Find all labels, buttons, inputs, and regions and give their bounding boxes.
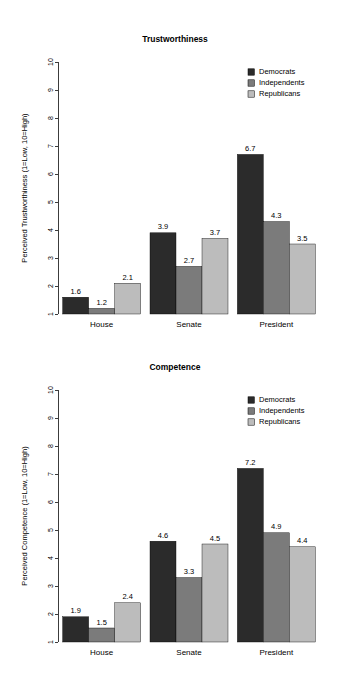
bar-value-label: 3.7 (210, 228, 220, 237)
legend-label-independents: Independents (259, 78, 305, 87)
bar-competence-senate-republicans (202, 544, 228, 642)
legend-label-independents: Independents (259, 406, 305, 415)
bar-trustworthiness-house-democrats (63, 297, 89, 314)
chart-title: Trustworthiness (142, 34, 208, 44)
y-axis-tick-label: 1 (47, 640, 54, 644)
y-axis-tick-label: 6 (47, 500, 54, 504)
chart-title: Competence (149, 362, 200, 372)
y-axis-tick-label: 7 (47, 144, 54, 148)
bar-trustworthiness-house-independents (89, 308, 115, 314)
bar-value-label: 7.2 (245, 458, 255, 467)
bar-value-label: 6.7 (245, 144, 255, 153)
bar-trustworthiness-senate-democrats (150, 233, 176, 314)
bar-value-label: 4.3 (271, 211, 281, 220)
bar-value-label: 2.4 (122, 592, 132, 601)
chart-panel-trustworthiness: Trustworthiness12345678910Perceived Trus… (0, 22, 349, 352)
legend-label-democrats: Democrats (259, 67, 296, 76)
bar-value-label: 3.9 (158, 222, 168, 231)
bar-competence-president-republicans (289, 547, 315, 642)
legend-swatch-independents (248, 408, 254, 414)
bar-value-label: 2.7 (184, 256, 194, 265)
bar-value-label: 4.5 (210, 534, 220, 543)
bar-value-label: 1.6 (70, 287, 80, 296)
bar-value-label: 4.9 (271, 522, 281, 531)
y-axis-tick-label: 4 (47, 556, 54, 560)
competence-bar-chart: Competence12345678910Perceived Competenc… (0, 350, 349, 677)
y-axis-tick-label: 9 (47, 88, 54, 92)
y-axis-tick-label: 8 (47, 116, 54, 120)
legend-label-republicans: Republicans (259, 417, 301, 426)
y-axis-tick-label: 9 (47, 416, 54, 420)
legend-swatch-republicans (248, 419, 254, 425)
y-axis-tick-label: 7 (47, 472, 54, 476)
bar-value-label: 1.9 (70, 606, 80, 615)
chart-panel-competence: Competence12345678910Perceived Competenc… (0, 350, 349, 677)
figure-page: Trustworthiness12345678910Perceived Trus… (0, 0, 349, 677)
y-axis-tick-label: 10 (47, 386, 54, 394)
x-axis-category-label: House (90, 648, 114, 657)
bar-value-label: 3.3 (184, 567, 194, 576)
bar-value-label: 2.1 (122, 273, 132, 282)
y-axis-tick-label: 5 (47, 200, 54, 204)
x-axis-category-label: Senate (176, 648, 202, 657)
legend-swatch-independents (248, 80, 254, 86)
y-axis-tick-label: 10 (47, 58, 54, 66)
bar-trustworthiness-senate-independents (176, 266, 202, 314)
bar-trustworthiness-senate-republicans (202, 238, 228, 314)
bar-trustworthiness-president-democrats (237, 154, 263, 314)
bar-value-label: 1.5 (96, 618, 106, 627)
bar-trustworthiness-president-independents (263, 222, 289, 314)
legend-swatch-republicans (248, 91, 254, 97)
bar-competence-president-independents (263, 533, 289, 642)
y-axis-title: Perceived Competence (1=Low, 10=High) (20, 446, 29, 586)
x-axis-category-label: President (259, 648, 294, 657)
trustworthiness-bar-chart: Trustworthiness12345678910Perceived Trus… (0, 22, 349, 352)
y-axis-tick-label: 6 (47, 172, 54, 176)
bar-competence-senate-democrats (150, 541, 176, 642)
y-axis-tick-label: 2 (47, 612, 54, 616)
y-axis-title: Perceived Trustworthiness (1=Low, 10=Hig… (20, 113, 29, 263)
legend-label-democrats: Democrats (259, 395, 296, 404)
bar-value-label: 1.2 (96, 298, 106, 307)
bar-competence-house-republicans (115, 603, 141, 642)
x-axis-category-label: House (90, 320, 114, 329)
bar-competence-senate-independents (176, 578, 202, 642)
y-axis-tick-label: 3 (47, 256, 54, 260)
bar-competence-president-democrats (237, 468, 263, 642)
x-axis-category-label: President (259, 320, 294, 329)
legend-swatch-democrats (248, 397, 254, 403)
bar-competence-house-independents (89, 628, 115, 642)
bar-trustworthiness-house-republicans (115, 283, 141, 314)
bar-value-label: 4.6 (158, 531, 168, 540)
legend-swatch-democrats (248, 69, 254, 75)
legend-label-republicans: Republicans (259, 89, 301, 98)
x-axis-category-label: Senate (176, 320, 202, 329)
y-axis-tick-label: 2 (47, 284, 54, 288)
y-axis-tick-label: 4 (47, 228, 54, 232)
bar-value-label: 3.5 (297, 234, 307, 243)
y-axis-tick-label: 1 (47, 312, 54, 316)
y-axis-tick-label: 8 (47, 444, 54, 448)
bar-trustworthiness-president-republicans (289, 244, 315, 314)
bar-value-label: 4.4 (297, 536, 307, 545)
y-axis-tick-label: 3 (47, 584, 54, 588)
y-axis-tick-label: 5 (47, 528, 54, 532)
bar-competence-house-democrats (63, 617, 89, 642)
